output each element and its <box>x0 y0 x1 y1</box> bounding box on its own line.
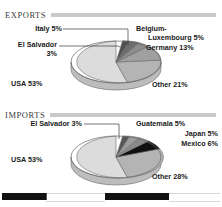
imports-label-guatemala: Guatemala 5% <box>136 120 220 129</box>
exports-label-usa: USA 53% <box>11 80 71 89</box>
bottom-bar-segment-2 <box>105 193 169 200</box>
exports-leader-italy <box>63 29 128 45</box>
exports-label-other: Other 21% <box>152 81 218 90</box>
exports-section: EXPORTS Italy 5% Belgiu <box>0 0 222 100</box>
imports-label-mexico: Mexico 6% <box>140 140 218 149</box>
exports-label-belgium: Belgium- Luxembourg 5% <box>136 25 220 42</box>
imports-label-usa: USA 53% <box>11 156 71 165</box>
imports-section: IMPORTS El Salvador 3% Guatema <box>0 100 222 190</box>
exports-label-el-salvador: El Salvador 3% <box>2 41 57 58</box>
imports-label-other: Other 28% <box>152 173 218 182</box>
imports-label-japan: Japan 5% <box>140 130 218 139</box>
exports-label-italy: Italy 5% <box>6 25 62 34</box>
bottom-decorative-bar <box>0 193 222 200</box>
exports-label-germany: Germany 13% <box>146 44 220 53</box>
bottom-bar-segment-1 <box>2 193 46 200</box>
imports-label-el-salvador: El Salvador 3% <box>2 120 82 129</box>
bottom-bar-gap-1 <box>46 193 105 202</box>
bottom-bar-tick <box>46 193 47 200</box>
bottom-bar-gap-2 <box>169 193 220 202</box>
